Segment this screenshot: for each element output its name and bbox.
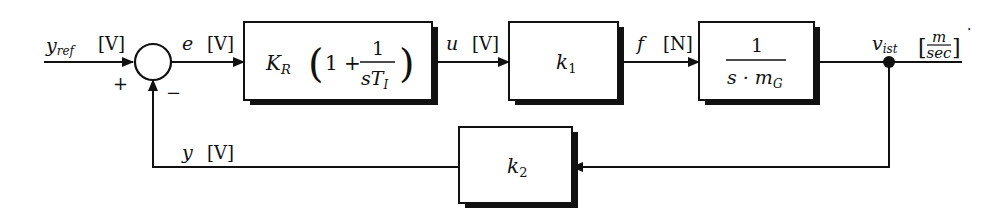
- output-unit-close: ]: [952, 35, 961, 60]
- input-label: yref: [45, 34, 77, 58]
- plus-sign: +: [113, 73, 128, 94]
- control-label: u: [446, 32, 458, 54]
- controller-block: KR ( 1 + 1 sTI ): [244, 22, 438, 105]
- controller-paren-close: ): [399, 40, 415, 86]
- stray-mark: ·: [967, 21, 971, 37]
- error-signal: e [V]: [171, 32, 244, 62]
- force-label: f: [635, 32, 647, 54]
- output-signal: vist [ m sec ] ·: [820, 21, 971, 68]
- force-unit: [N]: [663, 33, 693, 54]
- control-signal: u [V]: [438, 32, 509, 62]
- controller-one-plus: 1 +: [325, 51, 361, 75]
- input-signal: yref [V]: [44, 33, 133, 62]
- output-unit-den: sec: [927, 44, 953, 62]
- plant-numerator: 1: [751, 34, 763, 56]
- plant-block: 1 s · mG: [699, 22, 820, 105]
- error-label: e: [182, 32, 193, 54]
- feedback-label: y: [181, 141, 193, 163]
- actuator-block: k1: [509, 22, 624, 105]
- controller-numerator: 1: [372, 37, 384, 59]
- output-unit-open: [: [918, 35, 927, 60]
- force-signal: f [N]: [624, 32, 699, 62]
- minus-sign: −: [166, 82, 181, 103]
- summing-circle: [135, 44, 171, 80]
- control-unit: [V]: [472, 33, 499, 54]
- block-diagram: yref [V] + − e [V] KR ( 1 + 1 sTI ) u [V…: [0, 0, 1006, 222]
- controller-paren-open: (: [308, 40, 324, 86]
- output-unit: [ m sec ]: [918, 28, 961, 62]
- error-unit: [V]: [207, 33, 234, 54]
- input-unit: [V]: [98, 33, 125, 54]
- output-label: vist: [872, 32, 898, 56]
- feedback-unit: [V]: [207, 142, 234, 163]
